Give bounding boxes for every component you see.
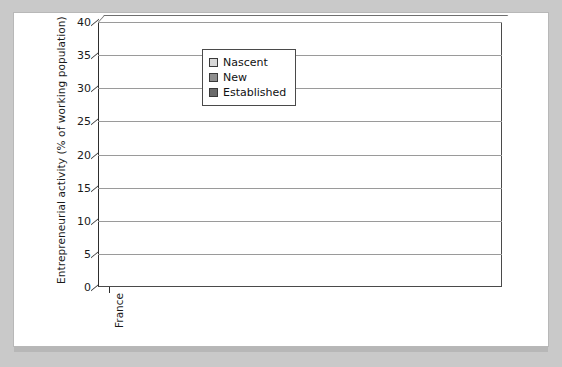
legend-swatch-new-icon bbox=[209, 73, 218, 82]
y-tick-label-35: 35 bbox=[77, 49, 91, 62]
y-tick-label-10: 10 bbox=[77, 214, 91, 227]
legend-label-new: New bbox=[223, 71, 247, 84]
bar-series-layer bbox=[98, 22, 502, 287]
y-tick-label-0: 0 bbox=[84, 281, 91, 294]
screenshot-root: Entrepreneurial activity (% of working p… bbox=[0, 0, 562, 367]
plot-region: 0510152025303540 Nascent New Established bbox=[98, 22, 502, 287]
legend-item-nascent: Nascent bbox=[209, 55, 286, 69]
legend-label-established: Established bbox=[223, 86, 286, 99]
figure-container: Entrepreneurial activity (% of working p… bbox=[14, 13, 548, 346]
y-tick-label-15: 15 bbox=[77, 181, 91, 194]
y-tick-label-25: 25 bbox=[77, 115, 91, 128]
legend-swatch-established-icon bbox=[209, 88, 218, 97]
chart-area: Entrepreneurial activity (% of working p… bbox=[14, 13, 548, 346]
legend-item-new: New bbox=[209, 70, 286, 84]
x-axis-label-france: France bbox=[113, 293, 125, 328]
chart-legend: Nascent New Established bbox=[202, 49, 296, 106]
legend-item-established: Established bbox=[209, 85, 286, 99]
y-tick-label-5: 5 bbox=[84, 247, 91, 260]
y-axis-label: Entrepreneurial activity (% of working p… bbox=[55, 34, 67, 284]
y-tick-label-30: 30 bbox=[77, 82, 91, 95]
y-tick-label-20: 20 bbox=[77, 148, 91, 161]
legend-label-nascent: Nascent bbox=[223, 56, 268, 69]
y-tick-label-40: 40 bbox=[77, 16, 91, 29]
plot-depth-top bbox=[98, 15, 508, 22]
x-axis-labels: France bbox=[98, 293, 502, 367]
legend-swatch-nascent-icon bbox=[209, 58, 218, 67]
x-tick-mark-France bbox=[109, 287, 110, 293]
